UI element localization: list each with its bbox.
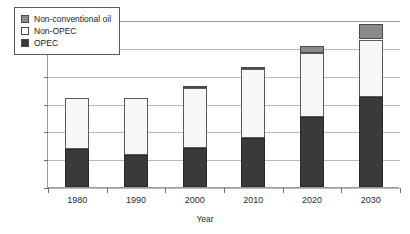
bar-group-1990[interactable] [124, 20, 148, 187]
legend-item-non-conventional-oil: Non-conventional oil [21, 13, 111, 25]
x-tick-label-2030: 2030 [341, 195, 401, 205]
y-tick-mark-60 [44, 105, 48, 106]
bar-segment-2000-non-opec[interactable] [183, 88, 207, 149]
gridline-20 [48, 160, 400, 161]
legend-label-non-conventional-oil: Non-conventional oil [34, 15, 111, 24]
bar-group-2030[interactable] [359, 20, 383, 187]
x-tick-label-2020: 2020 [282, 195, 342, 205]
y-tick-mark-40 [44, 132, 48, 133]
chart-legend: Non-conventional oil Non-OPEC OPEC [14, 7, 120, 55]
bar-segment-2030-non-opec[interactable] [359, 40, 383, 97]
legend-swatch-non-conventional-oil-icon [21, 15, 29, 23]
bar-segment-1980-opec[interactable] [65, 149, 89, 187]
x-tick-label-1980: 1980 [47, 195, 107, 205]
x-axis-title: Year [0, 214, 410, 224]
bar-segment-2020-opec[interactable] [300, 117, 324, 187]
bar-segment-2020-non-conventional-oil[interactable] [300, 46, 324, 53]
x-tick-mark-3 [224, 188, 225, 193]
bar-segment-2030-non-conventional-oil[interactable] [359, 24, 383, 39]
bar-segment-2020-non-opec[interactable] [300, 53, 324, 117]
bar-segment-1980-non-opec[interactable] [65, 98, 89, 149]
bar-segment-2010-opec[interactable] [241, 138, 265, 187]
legend-swatch-opec-icon [21, 39, 29, 47]
bar-group-2020[interactable] [300, 20, 324, 187]
legend-label-opec: OPEC [34, 39, 58, 48]
gridline-40 [48, 132, 400, 133]
x-tick-mark-5 [341, 188, 342, 193]
bar-segment-2030-opec[interactable] [359, 97, 383, 187]
legend-item-non-opec: Non-OPEC [21, 25, 111, 37]
gridline-80 [48, 77, 400, 78]
x-tick-mark-0 [48, 188, 49, 193]
bar-group-2000[interactable] [183, 20, 207, 187]
x-tick-mark-end [400, 188, 401, 193]
bar-segment-1990-opec[interactable] [124, 155, 148, 187]
bar-segment-2010-non-opec[interactable] [241, 69, 265, 137]
x-tick-label-2010: 2010 [223, 195, 283, 205]
bar-segment-2000-opec[interactable] [183, 148, 207, 187]
x-tick-mark-1 [107, 188, 108, 193]
x-tick-mark-2 [165, 188, 166, 193]
bar-group-2010[interactable] [241, 20, 265, 187]
stacked-bar-chart: Million Barrels per Day 0204060801001201… [0, 0, 410, 234]
gridline-60 [48, 105, 400, 106]
bar-segment-1990-non-opec[interactable] [124, 98, 148, 155]
legend-item-opec: OPEC [21, 37, 111, 49]
x-tick-label-1990: 1990 [106, 195, 166, 205]
legend-swatch-non-opec-icon [21, 27, 29, 35]
y-tick-mark-20 [44, 160, 48, 161]
bar-segment-2000-non-conventional-oil[interactable] [183, 86, 207, 88]
x-tick-label-2000: 2000 [165, 195, 225, 205]
y-tick-mark-80 [44, 77, 48, 78]
legend-label-non-opec: Non-OPEC [34, 27, 77, 36]
x-tick-mark-4 [283, 188, 284, 193]
bar-segment-2010-non-conventional-oil[interactable] [241, 67, 265, 69]
